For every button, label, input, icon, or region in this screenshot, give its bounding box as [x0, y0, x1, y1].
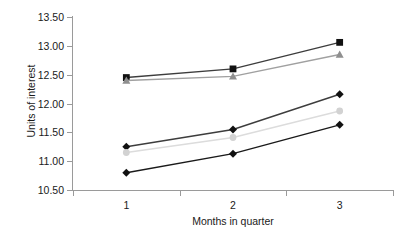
series-marker-circle	[336, 108, 343, 115]
series-marker-diamond	[336, 90, 344, 98]
series-marker-diamond	[229, 150, 237, 158]
series-marker-circle	[123, 149, 130, 156]
line-chart: Units of interest 13.5013.0012.5012.0011…	[0, 0, 409, 237]
series-marker-square	[230, 66, 237, 73]
series-marker-triangle	[336, 50, 344, 57]
x-axis-title: Months in quarter	[73, 215, 393, 227]
series-marker-diamond	[229, 125, 237, 133]
series-marker-diamond	[122, 169, 130, 177]
series-marker-square	[336, 39, 343, 46]
series-marker-diamond	[336, 121, 344, 129]
series-plot	[0, 0, 409, 237]
series-3	[122, 90, 343, 150]
series-marker-circle	[230, 134, 237, 141]
